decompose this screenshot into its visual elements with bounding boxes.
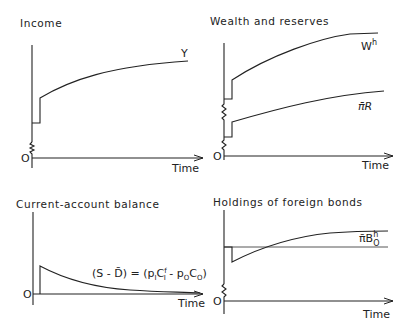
series-label-formula: (S - D̄) = (pICfI - pOCO): [92, 267, 207, 282]
wealth-curve: [224, 33, 378, 99]
panel-wealth-reserves: Wealth and reserves O Time Wh π̄R: [210, 15, 393, 172]
panel-current-account: Current-account balance O Time (S - D̄) …: [16, 198, 207, 310]
origin-label: O: [213, 295, 222, 308]
series-label-pib: π̄BhO: [359, 230, 380, 248]
x-axis-label: Time: [171, 162, 199, 175]
x-axis-label: Time: [362, 308, 390, 321]
origin-label: O: [213, 150, 222, 163]
origin-label: O: [23, 288, 32, 301]
panel-title: Income: [20, 17, 62, 29]
axis-break-icon: [222, 284, 226, 314]
figure-canvas: Income O Time Y Wealth and reserves O Ti…: [0, 0, 410, 330]
x-axis-label: Time: [361, 159, 389, 172]
income-curve: [32, 61, 188, 123]
panel-income: Income O Time Y: [20, 17, 203, 175]
x-axis-label: Time: [177, 297, 205, 310]
series-label-y: Y: [180, 47, 188, 60]
reserves-curve: [224, 91, 384, 137]
origin-label: O: [21, 152, 30, 165]
axis-break-icon: [30, 142, 34, 168]
axis-break-icon: [222, 99, 226, 137]
panel-title: Current-account balance: [16, 198, 160, 210]
series-label-pir: π̄R: [358, 100, 372, 113]
panel-foreign-bonds: Holdings of foreign bonds O Time π̄BhO: [213, 196, 393, 321]
series-label-wh: Wh: [361, 38, 377, 53]
panel-title: Holdings of foreign bonds: [213, 196, 363, 208]
panel-title: Wealth and reserves: [210, 15, 329, 27]
